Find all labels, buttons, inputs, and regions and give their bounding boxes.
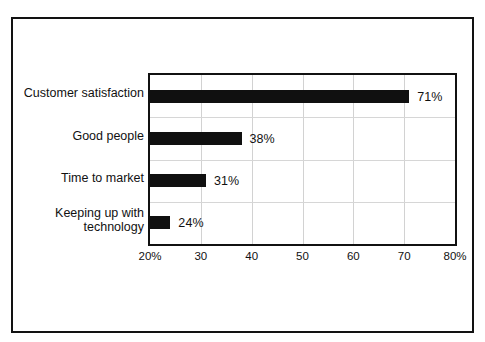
category-label: Keeping up with technology (10, 207, 144, 234)
bar[interactable] (150, 216, 170, 229)
x-tick-label: 70 (398, 250, 411, 263)
x-tick-label: 50 (296, 250, 309, 263)
bar-band: 38% (150, 117, 455, 159)
bar-value-label: 38% (250, 133, 275, 146)
x-tick-label: 20% (138, 250, 161, 263)
category-label: Customer satisfaction (10, 87, 144, 101)
category-label: Time to market (10, 172, 144, 186)
bar-band: 71% (150, 75, 455, 117)
category-label: Good people (10, 130, 144, 144)
x-tick-label: 60 (347, 250, 360, 263)
bar-band: 24% (150, 202, 455, 244)
bar-band: 31% (150, 160, 455, 202)
bar-value-label: 71% (417, 91, 442, 104)
x-tick-label: 80% (443, 250, 466, 263)
bar[interactable] (150, 174, 206, 187)
x-axis-tick-labels: 20%304050607080% (148, 250, 457, 268)
plot-area: 71%38%31%24% (148, 73, 457, 246)
bar-value-label: 24% (178, 217, 203, 230)
x-tick-label: 30 (194, 250, 207, 263)
bar[interactable] (150, 90, 409, 103)
x-tick-label: 40 (245, 250, 258, 263)
category-axis-labels: Customer satisfactionGood peopleTime to … (8, 73, 144, 246)
bar[interactable] (150, 132, 242, 145)
bar-value-label: 31% (214, 175, 239, 188)
plot-inner: 71%38%31%24% (150, 75, 455, 244)
horizontal-bar-chart: 71%38%31%24% Customer satisfactionGood p… (0, 0, 485, 342)
